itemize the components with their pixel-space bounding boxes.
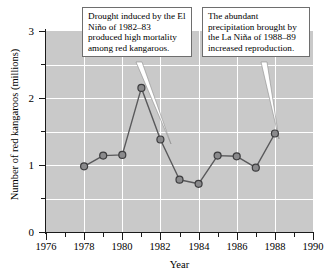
y-axis-title: Number of red kangaroos (millions) <box>9 25 20 225</box>
x-tick-label: 1984 <box>179 241 219 253</box>
x-tick-minor <box>103 233 104 237</box>
gridline-horizontal <box>46 165 313 166</box>
x-tick-minor <box>65 233 66 237</box>
x-tick-label: 1976 <box>26 241 66 253</box>
y-tick-minor <box>41 131 46 132</box>
y-tick-label: 3 <box>29 26 35 36</box>
x-tick-label: 1988 <box>255 241 295 253</box>
x-tick-minor <box>141 233 142 237</box>
gridline-horizontal <box>46 98 313 99</box>
y-tick-minor <box>41 64 46 65</box>
gridline-vertical <box>313 31 314 232</box>
x-tick-minor <box>256 233 257 237</box>
x-tick-major <box>84 233 85 240</box>
x-tick-major <box>199 233 200 240</box>
x-tick-major <box>46 233 47 240</box>
gridline-horizontal <box>46 132 313 133</box>
x-tick-major <box>122 233 123 240</box>
x-tick-label: 1990 <box>293 241 333 253</box>
x-tick-minor <box>294 233 295 237</box>
x-tick-major <box>237 233 238 240</box>
x-tick-major <box>275 233 276 240</box>
y-tick-major <box>39 165 46 166</box>
callout-drought: Drought induced by the El Niño of 1982–8… <box>82 7 192 57</box>
x-tick-label: 1978 <box>64 241 104 253</box>
x-tick-label: 1986 <box>217 241 257 253</box>
y-tick-label: 0 <box>29 227 35 237</box>
x-tick-label: 1982 <box>140 241 180 253</box>
y-tick-major <box>39 232 46 233</box>
x-tick-minor <box>180 233 181 237</box>
x-tick-minor <box>218 233 219 237</box>
gridline-horizontal <box>46 65 313 66</box>
callout-precipitation: The abundant precipitation brought by th… <box>202 7 310 57</box>
y-tick-label: 2 <box>29 93 35 103</box>
gridline-horizontal <box>46 199 313 200</box>
x-tick-label: 1980 <box>102 241 142 253</box>
y-tick-major <box>39 98 46 99</box>
y-tick-major <box>39 31 46 32</box>
plot-area <box>46 31 313 232</box>
y-tick-minor <box>41 198 46 199</box>
y-tick-label: 1 <box>29 160 35 170</box>
x-tick-major <box>313 233 314 240</box>
x-axis-title: Year <box>46 259 313 270</box>
x-tick-major <box>160 233 161 240</box>
chart-figure: 3 2 1 0 1976 1978 1980 1982 1984 1986 19… <box>0 0 336 280</box>
